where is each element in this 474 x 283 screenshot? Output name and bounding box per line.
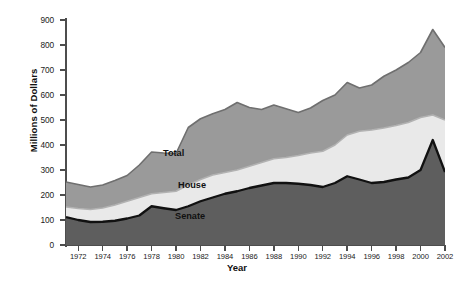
y-tick-label: 0 xyxy=(8,240,54,250)
x-tick xyxy=(126,246,127,251)
y-tick-label: 300 xyxy=(8,165,54,175)
y-tick-label: 900 xyxy=(8,15,54,25)
x-tick xyxy=(200,246,201,251)
x-tick xyxy=(224,246,225,251)
y-tick xyxy=(60,19,65,20)
y-tick xyxy=(60,69,65,70)
stacked-area-chart: Millions of Dollars Year 010020030040050… xyxy=(0,0,474,283)
x-tick xyxy=(175,246,176,251)
y-tick-label: 400 xyxy=(8,140,54,150)
x-tick-label: 2002 xyxy=(428,252,462,261)
series-label-house: House xyxy=(178,180,206,190)
y-tick-label: 500 xyxy=(8,115,54,125)
x-tick xyxy=(420,246,421,251)
x-tick xyxy=(249,246,250,251)
x-axis-title: Year xyxy=(0,262,474,273)
x-tick xyxy=(78,246,79,251)
y-tick-label: 600 xyxy=(8,90,54,100)
x-tick xyxy=(151,246,152,251)
y-tick xyxy=(60,144,65,145)
x-tick xyxy=(371,246,372,251)
y-tick xyxy=(60,219,65,220)
y-tick xyxy=(60,194,65,195)
series-label-senate: Senate xyxy=(175,211,205,221)
y-tick-label: 800 xyxy=(8,40,54,50)
y-tick xyxy=(60,244,65,245)
x-tick xyxy=(102,246,103,251)
y-tick xyxy=(60,119,65,120)
y-tick xyxy=(60,94,65,95)
x-tick xyxy=(444,246,445,251)
x-tick xyxy=(346,246,347,251)
x-tick xyxy=(298,246,299,251)
area-layers xyxy=(66,20,445,245)
plot-area xyxy=(66,20,445,245)
x-tick xyxy=(322,246,323,251)
y-tick xyxy=(60,169,65,170)
y-tick xyxy=(60,44,65,45)
series-label-total: Total xyxy=(163,148,184,158)
y-tick-label: 100 xyxy=(8,215,54,225)
x-tick xyxy=(395,246,396,251)
y-tick-label: 200 xyxy=(8,190,54,200)
y-tick-label: 700 xyxy=(8,65,54,75)
x-tick xyxy=(273,246,274,251)
